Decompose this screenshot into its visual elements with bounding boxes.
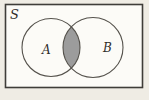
universal-set-label: S bbox=[10, 7, 19, 22]
venn-diagram-canvas: S A B bbox=[0, 0, 149, 100]
set-b-label: B bbox=[102, 41, 112, 55]
venn-diagram-figure: S A B bbox=[0, 0, 149, 100]
set-a-label: A bbox=[41, 43, 51, 57]
